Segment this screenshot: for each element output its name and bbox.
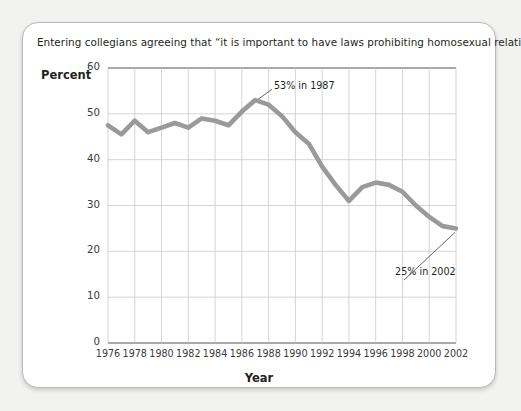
y-axis-tick-0: 0 [74, 336, 100, 347]
annotation-peak: 53% in 1987 [274, 80, 335, 91]
y-axis-tick-20: 20 [74, 244, 100, 255]
y-axis-tick-50: 50 [74, 107, 100, 118]
x-axis-tick-2002: 2002 [436, 348, 476, 359]
y-axis-tick-10: 10 [74, 290, 100, 301]
screenshot-root: Entering collegians agreeing that “it is… [0, 0, 521, 411]
y-axis-tick-60: 60 [74, 61, 100, 72]
y-axis-tick-30: 30 [74, 199, 100, 210]
y-axis-tick-40: 40 [74, 153, 100, 164]
annotation-end: 25% in 2002 [395, 266, 456, 277]
